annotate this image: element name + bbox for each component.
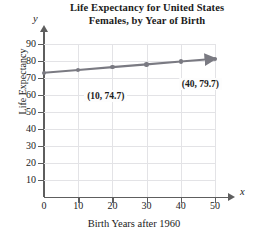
annotation-10: (10, 74.7) — [84, 90, 127, 102]
y-tick-mark-90 — [38, 44, 44, 45]
y-tick-mark-30 — [38, 146, 44, 147]
y-tick-mark-70 — [38, 78, 44, 79]
x-tick-mark-40 — [181, 197, 182, 203]
y-tick-label-80: 80 — [12, 55, 36, 66]
x-tick-mark-50 — [215, 197, 216, 203]
chart-figure: Life Expectancy for United States Female… — [0, 0, 257, 241]
x-tick-mark-10 — [78, 197, 79, 203]
y-tick-label-20: 20 — [12, 157, 36, 168]
y-tick-label-10: 10 — [12, 174, 36, 185]
y-tick-mark-60 — [38, 95, 44, 96]
y-tick-label-30: 30 — [12, 140, 36, 151]
y-tick-label-50: 50 — [12, 106, 36, 117]
y-tick-label-60: 60 — [12, 89, 36, 100]
x-tick-mark-20 — [112, 197, 113, 203]
y-tick-label-70: 70 — [12, 72, 36, 83]
y-tick-mark-20 — [38, 163, 44, 164]
x-tick-label-0: 0 — [32, 200, 56, 211]
y-tick-mark-50 — [38, 112, 44, 113]
y-tick-mark-80 — [38, 61, 44, 62]
x-tick-mark-30 — [147, 197, 148, 203]
y-tick-mark-40 — [38, 129, 44, 130]
y-tick-mark-10 — [38, 180, 44, 181]
annotation-40: (40, 79.7) — [179, 78, 222, 90]
y-tick-label-40: 40 — [12, 123, 36, 134]
y-tick-label-90: 90 — [12, 38, 36, 49]
